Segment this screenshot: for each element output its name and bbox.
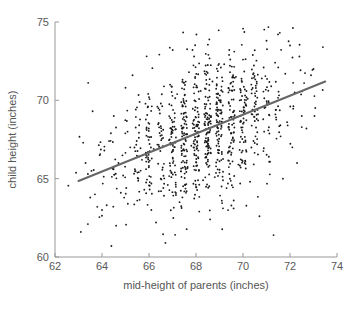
data-point (244, 136, 246, 138)
data-point (194, 99, 196, 101)
data-point (145, 192, 147, 194)
data-point (242, 150, 244, 152)
data-point (174, 191, 176, 193)
data-point (266, 40, 268, 42)
data-point (138, 94, 140, 96)
data-point (193, 165, 195, 167)
data-point (221, 186, 223, 188)
x-tick-label: 74 (331, 260, 343, 272)
data-point (204, 73, 206, 75)
data-point (207, 159, 209, 161)
data-point (222, 105, 224, 107)
data-point (172, 195, 174, 197)
data-point (274, 113, 276, 115)
data-point (286, 121, 288, 123)
data-point (161, 105, 163, 107)
data-point (183, 155, 185, 157)
data-point (186, 228, 188, 230)
data-point (115, 127, 117, 129)
data-point (182, 149, 184, 151)
data-point (167, 184, 169, 186)
data-point (183, 190, 185, 192)
data-point (256, 83, 258, 85)
data-point (233, 208, 235, 210)
data-point (252, 54, 254, 56)
data-point (161, 93, 163, 95)
data-point (232, 76, 234, 78)
data-point (212, 81, 214, 83)
x-axis-title: mid-height of parents (inches) (123, 279, 269, 291)
data-point (115, 177, 117, 179)
data-point (198, 91, 200, 93)
data-point (229, 59, 231, 61)
data-point (303, 82, 305, 84)
data-point (100, 149, 102, 151)
data-point (92, 110, 94, 112)
data-point (207, 54, 209, 56)
data-point (218, 149, 220, 151)
data-point (148, 154, 150, 156)
data-point (160, 127, 162, 129)
data-point (146, 155, 148, 157)
data-point (262, 118, 264, 120)
data-point (247, 98, 249, 100)
data-point (149, 143, 151, 145)
data-point (162, 187, 164, 189)
data-point (255, 101, 257, 103)
data-point (185, 188, 187, 190)
data-point (227, 209, 229, 211)
data-point (229, 109, 231, 111)
data-point (217, 139, 219, 141)
data-point (216, 101, 218, 103)
data-point (216, 145, 218, 147)
data-point (122, 175, 124, 177)
data-point (111, 176, 113, 178)
data-point (241, 78, 243, 80)
data-point (231, 99, 233, 101)
data-point (256, 90, 258, 92)
data-point (112, 141, 114, 143)
data-point (198, 211, 200, 213)
data-point (275, 81, 277, 83)
data-point (183, 82, 185, 84)
data-point (176, 93, 178, 95)
data-point (206, 118, 208, 120)
data-point (147, 204, 149, 206)
data-point (223, 63, 225, 65)
data-point (115, 225, 117, 227)
data-point (241, 111, 243, 113)
data-point (135, 144, 137, 146)
data-point (124, 176, 126, 178)
data-point (215, 133, 217, 135)
data-point (269, 173, 271, 175)
data-point (230, 180, 232, 182)
data-point (193, 140, 195, 142)
data-point (284, 73, 286, 75)
data-point (196, 140, 198, 142)
data-point (207, 143, 209, 145)
data-point (276, 138, 278, 140)
data-point (162, 233, 164, 235)
data-point (268, 133, 270, 135)
data-point (194, 77, 196, 79)
data-point (266, 48, 268, 50)
data-point (275, 109, 277, 111)
data-point (197, 179, 199, 181)
data-point (196, 189, 198, 191)
data-point (241, 138, 243, 140)
data-point (216, 119, 218, 121)
data-point (200, 90, 202, 92)
data-point (80, 231, 82, 233)
data-point (148, 175, 150, 177)
data-point (254, 92, 256, 94)
data-point (146, 114, 148, 116)
data-point (85, 162, 87, 164)
data-point (110, 132, 112, 134)
data-point (287, 124, 289, 126)
data-point (219, 160, 221, 162)
data-point (234, 114, 236, 116)
data-point (146, 135, 148, 137)
data-point (195, 106, 197, 108)
data-point (172, 95, 174, 97)
data-point (292, 82, 294, 84)
